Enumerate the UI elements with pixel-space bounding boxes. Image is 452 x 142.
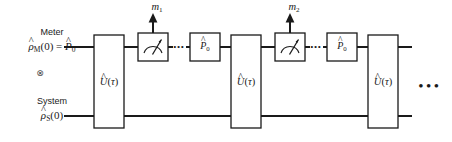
trailing-ellipsis: •••: [418, 79, 441, 94]
quantum-circuit-figure: Meter ρ^M(0) = P^0 ⊗ System ρ^S(0) U^(τ)…: [0, 0, 452, 142]
meter-name-label: Meter: [40, 28, 63, 37]
circuit-canvas: [0, 0, 452, 142]
tensor-product-symbol: ⊗: [36, 69, 44, 78]
unitary-gate-1-label: U^(τ): [100, 77, 118, 88]
outcome-label-1: m1: [151, 2, 162, 14]
unitary-gate-3-label: U^(τ): [374, 77, 392, 88]
meter-state-label: ρ^M(0) = P^0: [29, 41, 76, 53]
system-state-label: ρ^S(0): [41, 110, 63, 122]
projector-2-label: P^0: [337, 41, 347, 52]
outcome-arrow-1: [149, 13, 158, 33]
inner-dots-1: •••: [173, 43, 184, 52]
outcome-arrow-2: [286, 13, 295, 33]
projector-1-label: P^0: [200, 41, 210, 52]
outcome-label-2: m2: [288, 2, 299, 14]
unitary-gate-2-label: U^(τ): [237, 77, 255, 88]
inner-dots-2: •••: [310, 43, 321, 52]
